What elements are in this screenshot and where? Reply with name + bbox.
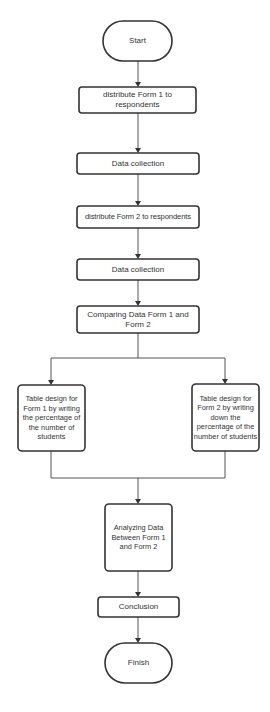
edge-table1-analyze <box>51 451 138 478</box>
node-table1-label: Table design for Form 1 by writing the p… <box>19 394 84 442</box>
node-distribute2-label: distribute Form 2 to respondents <box>85 212 191 222</box>
node-table1[interactable]: Table design for Form 1 by writing the p… <box>18 385 85 451</box>
node-finish[interactable]: Finish <box>105 643 172 683</box>
node-analyze[interactable]: Analyzing Data Between Form 1 and Form 2 <box>105 504 172 571</box>
edge-compare-table1 <box>51 333 138 381</box>
edge-table2-analyze <box>138 451 225 478</box>
node-compare-label: Comparing Data Form 1 and Form 2 <box>85 310 191 329</box>
node-table2[interactable]: Table design for Form 2 by writing down … <box>192 384 259 451</box>
node-collect2[interactable]: Data collection <box>77 259 199 280</box>
node-analyze-label: Analyzing Data Between Form 1 and Form 2 <box>106 523 171 552</box>
node-start-label: Start <box>129 36 146 46</box>
node-distribute1-label: distribute Form 1 to respondents <box>95 90 180 109</box>
node-collect1[interactable]: Data collection <box>77 153 199 174</box>
node-table2-label: Table design for Form 2 by writing down … <box>193 394 258 442</box>
node-distribute1[interactable]: distribute Form 1 to respondents <box>79 87 196 113</box>
node-distribute2[interactable]: distribute Form 2 to respondents <box>77 206 199 228</box>
node-finish-label: Finish <box>128 658 149 668</box>
node-compare[interactable]: Comparing Data Form 1 and Form 2 <box>77 306 199 333</box>
node-collect1-label: Data collection <box>112 159 164 169</box>
node-collect2-label: Data collection <box>112 265 164 275</box>
node-start[interactable]: Start <box>103 21 172 61</box>
node-conclusion-label: Conclusion <box>119 602 159 612</box>
edge-compare-table2 <box>138 358 225 380</box>
node-conclusion[interactable]: Conclusion <box>98 597 179 617</box>
